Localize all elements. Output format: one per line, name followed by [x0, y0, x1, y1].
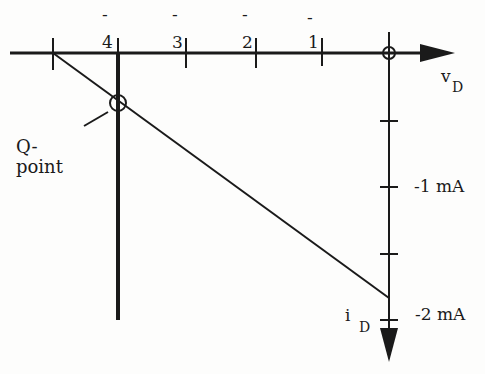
q-point-label-line1: Q-	[16, 138, 38, 156]
x-tick-label: 3	[172, 34, 183, 51]
diagram-canvas: - - - - 4 3 2 1 v D -1 mA -2 mA i D Q- p…	[0, 0, 485, 374]
load-line	[53, 53, 389, 298]
x-tick-label: 2	[242, 34, 253, 51]
x-tick-label: 1	[308, 34, 319, 51]
x-tick-label: 4	[102, 34, 113, 51]
x-axis-label: v	[441, 68, 451, 85]
x-tick-minus: -	[307, 9, 313, 26]
diagram-graphics	[0, 0, 485, 374]
y-tick-label: -2 mA	[415, 306, 465, 323]
y-axis-label-subscript: D	[359, 320, 370, 334]
y-tick-label: -1 mA	[414, 178, 464, 195]
x-tick-minus: -	[172, 6, 178, 23]
q-point-label-line2: point	[16, 158, 63, 176]
x-axis-arrow-icon	[420, 44, 455, 62]
x-axis-label-subscript: D	[452, 80, 463, 94]
x-tick-minus: -	[102, 6, 108, 23]
y-axis-label: i	[345, 307, 350, 324]
y-axis-arrow-icon	[380, 328, 398, 362]
q-point-pointer	[84, 112, 108, 126]
x-tick-minus: -	[242, 6, 248, 23]
